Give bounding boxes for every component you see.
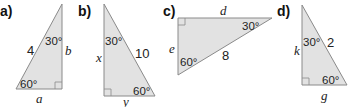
side-y: y xyxy=(121,94,129,107)
side-e: e xyxy=(169,41,175,56)
side-d: d xyxy=(220,3,227,18)
side-a: a xyxy=(36,91,43,106)
triangles-diagram: a) 30° 60° 4 b a b) 30° 60° 10 x y c) 30… xyxy=(0,0,355,107)
angle-bottom-a: 60° xyxy=(20,78,37,90)
angle-bottom-c: 60° xyxy=(180,56,197,68)
angle-top-d: 30° xyxy=(303,36,320,48)
angle-right-c: 30° xyxy=(242,20,259,32)
figure-label-d: d) xyxy=(277,3,290,19)
figure-label-c: c) xyxy=(163,3,175,19)
hypotenuse-b: 10 xyxy=(135,46,149,61)
triangle-a: a) 30° 60° 4 b a xyxy=(0,3,72,106)
angle-bottom-d: 60° xyxy=(322,74,339,86)
triangle-d: d) 30° 60° 2 k g xyxy=(277,3,347,103)
side-x: x xyxy=(95,50,102,65)
triangle-c: c) 30° 60° 8 e d xyxy=(163,3,272,75)
angle-bottom-b: 60° xyxy=(133,85,150,97)
triangle-b: b) 30° 60° 10 x y xyxy=(78,3,155,107)
angle-top-a: 30° xyxy=(45,35,62,47)
figure-label-b: b) xyxy=(78,3,91,19)
side-b: b xyxy=(65,43,72,58)
hypotenuse-d: 2 xyxy=(327,35,334,50)
angle-top-b: 30° xyxy=(105,35,122,47)
hypotenuse-a: 4 xyxy=(27,43,34,58)
side-k: k xyxy=(294,43,300,58)
hypotenuse-c: 8 xyxy=(222,48,229,63)
side-g: g xyxy=(321,88,328,103)
figure-label-a: a) xyxy=(0,3,12,19)
